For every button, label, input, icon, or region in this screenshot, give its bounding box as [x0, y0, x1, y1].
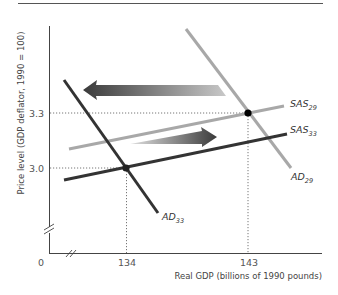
- x-tick-134: 134: [118, 257, 136, 268]
- sas29-label-sub: 29: [309, 104, 317, 112]
- equilibrium-point-1929: [244, 109, 251, 116]
- ad29-label-main: AD: [290, 171, 305, 182]
- ad29-label: AD29: [290, 171, 313, 185]
- sas29-label: SAS29: [290, 98, 317, 112]
- x-tick-143: 143: [240, 257, 258, 268]
- equilibrium-point-1933: [122, 164, 129, 171]
- ad-shift-left-arrow: [83, 80, 226, 100]
- ad29-label-sub: 29: [305, 177, 313, 185]
- y-axis-title: Price level (GDP deflator, 1990 = 100): [16, 32, 26, 195]
- ad29-curve: [186, 29, 291, 168]
- sas33-label-sub: 33: [309, 130, 317, 138]
- y-tick-3.3: 3.3: [29, 108, 44, 119]
- y-tick-3.0: 3.0: [29, 163, 44, 174]
- ad33-label-sub: 33: [176, 217, 184, 225]
- ad-sas-chart: 3.3 3.0 0 134 143 Real GDP (billions of …: [0, 0, 338, 295]
- sas33-label-main: SAS: [290, 124, 309, 135]
- sas29-label-main: SAS: [290, 98, 309, 109]
- x-axis-title: Real GDP (billions of 1990 pounds): [174, 271, 322, 281]
- origin-label: 0: [38, 257, 44, 268]
- sas-shift-right-arrow: [130, 127, 217, 147]
- ad33-label: AD33: [161, 211, 184, 225]
- ad33-label-main: AD: [161, 211, 176, 222]
- sas33-label: SAS33: [290, 124, 317, 138]
